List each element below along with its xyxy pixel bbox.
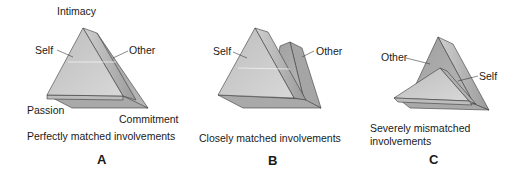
caption-c: Severely mismatched involvements xyxy=(370,122,470,147)
label-intimacy: Intimacy xyxy=(57,5,96,17)
label-passion: Passion xyxy=(27,104,64,116)
triangle-c xyxy=(394,37,489,110)
caption-c-line1: Severely mismatched xyxy=(370,122,470,135)
label-commitment: Commitment xyxy=(119,113,179,125)
label-other-b: Other xyxy=(316,45,342,57)
label-self-b: Self xyxy=(213,45,231,57)
panel-letter-b: B xyxy=(268,153,277,168)
panel-letter-a: A xyxy=(97,152,106,167)
caption-c-line2: involvements xyxy=(370,135,470,148)
caption-b: Closely matched involvements xyxy=(199,132,341,145)
label-self-a: Self xyxy=(35,44,53,56)
label-self-c: Self xyxy=(479,70,497,82)
caption-a: Perfectly matched involvements xyxy=(27,130,175,143)
panel-letter-c: C xyxy=(429,152,438,167)
label-other-c: Other xyxy=(381,51,407,63)
label-other-a: Other xyxy=(129,44,155,56)
triangle-a xyxy=(47,28,148,108)
triangle-b xyxy=(218,28,321,108)
